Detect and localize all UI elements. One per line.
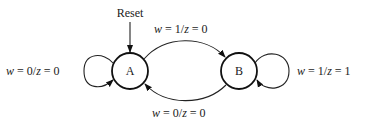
reset-label: Reset xyxy=(117,6,144,20)
transition-a-to-a: w = 0/z = 0 xyxy=(6,56,113,87)
transition-b-to-a: w = 0/z = 0 xyxy=(145,84,226,120)
transition-label-a-b: w = 1/z = 0 xyxy=(154,22,208,36)
transition-b-to-b: w = 1/z = 1 xyxy=(255,54,351,88)
transition-label-a-a: w = 0/z = 0 xyxy=(6,64,60,78)
state-a-label: A xyxy=(126,64,135,78)
transition-label-b-a: w = 0/z = 0 xyxy=(152,106,206,120)
state-b: B xyxy=(221,53,257,89)
state-a: A xyxy=(112,53,148,89)
transition-a-to-b: w = 1/z = 0 xyxy=(144,22,225,59)
reset-arrow: Reset xyxy=(117,6,144,52)
transition-label-b-b: w = 1/z = 1 xyxy=(297,64,351,78)
state-b-label: B xyxy=(235,64,243,78)
state-diagram: Reset w = 0/z = 0 w = 1/z = 0 w = 1/z = … xyxy=(0,0,368,125)
